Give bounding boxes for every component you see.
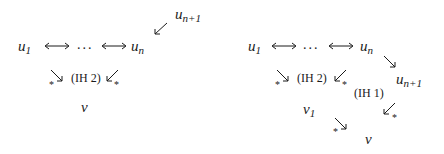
node-u1: u1 [248, 39, 261, 56]
ellipsis: ... [77, 38, 94, 52]
label-ih1: (IH 1) [354, 87, 384, 99]
arrow-down-right-icon [383, 55, 397, 69]
bidirectional-arrow-icon [327, 41, 355, 51]
bidirectional-arrow-icon [270, 41, 298, 51]
bidirectional-arrow-icon [43, 41, 71, 51]
bidirectional-arrow-icon [100, 41, 128, 51]
node-u1: u1 [18, 39, 31, 56]
ellipsis: ... [303, 38, 320, 52]
node-un: un [131, 39, 144, 56]
node-v: v [365, 132, 372, 147]
star-mark: * [333, 127, 338, 137]
star-mark: * [342, 80, 347, 90]
label-ih2: (IH 2) [297, 72, 327, 84]
node-un-plus-1: un+1 [175, 7, 201, 24]
node-un: un [360, 39, 373, 56]
star-mark: * [275, 80, 280, 90]
star-mark: * [49, 80, 54, 90]
star-mark: * [392, 113, 397, 123]
node-un-plus-1: un+1 [396, 72, 422, 89]
label-ih2: (IH 2) [71, 72, 101, 84]
node-v: v [81, 100, 88, 115]
star-mark: * [114, 80, 119, 90]
node-v1: v1 [303, 102, 315, 119]
arrow-down-left-icon [153, 22, 169, 36]
